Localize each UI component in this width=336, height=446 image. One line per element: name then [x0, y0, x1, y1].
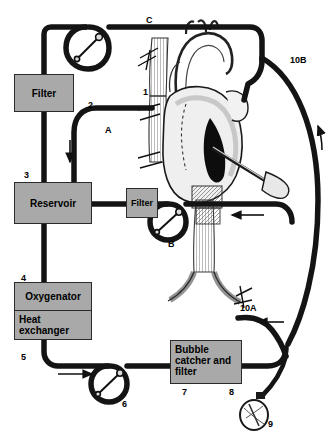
- callout-4: 4: [21, 274, 26, 283]
- arterial-filter-label: Filter: [32, 88, 56, 99]
- oxygenator-cell: Oxygenator: [15, 283, 91, 311]
- callout-A: A: [105, 126, 112, 135]
- reservoir-box[interactable]: Reservoir: [14, 182, 92, 224]
- bubble-catcher-box[interactable]: Bubble catcher and filter: [170, 340, 242, 384]
- callout-3: 3: [24, 171, 29, 180]
- callout-7: 7: [182, 388, 187, 397]
- cardiotomy-filter-box[interactable]: Filter: [126, 188, 158, 218]
- bulb-9: [240, 392, 268, 430]
- pump-head-6: [96, 370, 124, 397]
- arterial-filter-box[interactable]: Filter: [14, 74, 74, 112]
- heat-exchanger-label-line1: Heat: [19, 314, 91, 325]
- pump-head-C: [74, 34, 102, 62]
- bubble-catcher-label-line3: filter: [175, 366, 241, 377]
- callout-10B: 10B: [290, 56, 307, 65]
- aorta-arch: [176, 33, 233, 92]
- tube-line-A-to-reservoir: [74, 108, 152, 182]
- oxygenator-label: Oxygenator: [25, 291, 81, 302]
- cardiotomy-filter-label: Filter: [131, 198, 153, 209]
- oxygenator-heat-exchanger-box[interactable]: Oxygenator Heat exchanger: [14, 282, 92, 340]
- tube-10A: [238, 318, 286, 357]
- callout-6: 6: [122, 400, 127, 409]
- bubble-catcher-label-line1: Bubble: [175, 344, 241, 355]
- heat-exchanger-cell: Heat exchanger: [15, 311, 91, 339]
- callout-10A: 10A: [240, 304, 257, 313]
- superior-vena-cava: [150, 38, 168, 96]
- tube-to-bulb-9: [262, 356, 286, 396]
- reservoir-label: Reservoir: [30, 198, 76, 209]
- hatched-band-2: [196, 208, 220, 224]
- callout-2: 2: [88, 101, 93, 110]
- callout-9: 9: [268, 420, 273, 429]
- callout-B: B: [168, 240, 175, 249]
- vessel-bifurcation: [170, 272, 240, 302]
- callout-8: 8: [229, 388, 234, 397]
- heat-exchanger-label-line2: exchanger: [19, 325, 91, 336]
- tube-aortic-cannula: [244, 60, 262, 100]
- bubble-catcher-label-line2: catcher and: [175, 355, 241, 366]
- callout-1: 1: [143, 88, 148, 97]
- tube-bubble-out: [242, 348, 286, 366]
- arrow-10B-arc: [318, 126, 322, 150]
- pump-head-B: [155, 209, 183, 235]
- tube-10B-arc: [262, 58, 318, 344]
- bypass-circuit-figure: Filter Reservoir Filter Oxygenator Heat …: [0, 0, 336, 446]
- tube-oxy-out: [44, 340, 108, 366]
- callout-5: 5: [21, 353, 26, 362]
- callout-C: C: [146, 16, 153, 25]
